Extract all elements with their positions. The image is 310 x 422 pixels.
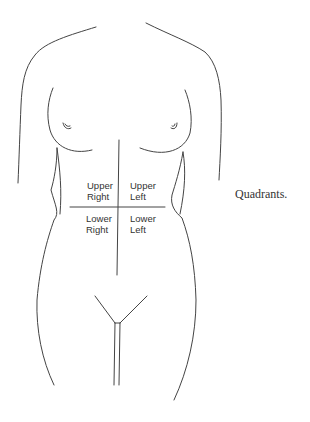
left-breast-line [48, 88, 92, 151]
label-lower-right: Lower Right [86, 213, 112, 235]
label-upper-left: Upper Left [130, 180, 156, 202]
groin-left-line [95, 296, 115, 323]
label-upper-right: Upper Right [87, 180, 113, 202]
label-lower-left: Lower Left [130, 213, 156, 235]
figure-caption: Quadrants. [235, 187, 287, 202]
groin-right-line [120, 296, 147, 323]
left-arm-inner [57, 148, 61, 214]
inner-leg-right [119, 323, 120, 385]
left-nipple-inner [65, 124, 70, 126]
torso-outline-drawing [0, 0, 310, 422]
right-breast-line [140, 90, 191, 152]
inner-leg-left [114, 323, 115, 385]
left-waist-line [37, 148, 57, 385]
right-nipple-inner [172, 124, 175, 126]
